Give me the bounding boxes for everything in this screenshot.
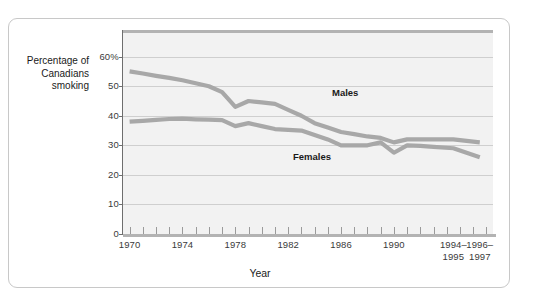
series-label-males: Males [332,87,358,98]
x-tick-mark-1992 [420,227,421,234]
y-axis-title-line-1: Percentage of [17,55,89,68]
x-tick-label-line-2: 1995 [440,251,467,263]
x-tick-label-line-1: 1974 [172,239,194,251]
y-tick-label-50: 50 [108,81,119,91]
y-tick-label-30: 30 [108,140,119,150]
x-tick-label-line-1: 1994– [440,239,467,251]
x-tick-mark-1996 [473,227,474,234]
x-tick-mark-1972 [156,227,157,234]
x-tick-mark-1987 [354,227,355,234]
x-tick-mark-1971 [143,227,144,234]
y-axis-tick-labels: 60%50403020100 [87,19,119,249]
x-tick-label-line-1: 1986 [330,239,352,251]
x-tick-mark-1983 [301,227,302,234]
x-tick-label-1996: 1996–1997 [466,239,493,263]
x-tick-mark-1975 [196,227,197,234]
x-tick-mark-1993 [434,227,435,234]
y-tick-label-60: 60% [99,52,119,62]
x-tick-mark-1985 [328,227,329,234]
y-tick-label-10: 10 [108,199,119,209]
x-tick-mark-1988 [367,227,368,234]
x-tick-mark-1973 [169,227,170,234]
x-tick-mark-1974 [182,227,183,234]
x-tick-mark-1997 [486,227,487,234]
x-tick-label-1978: 1978 [225,239,247,251]
x-tick-label-line-1: 1990 [383,239,405,251]
x-tick-label-1994: 1994–1995 [440,239,467,263]
x-tick-label-line-1: 1982 [277,239,299,251]
x-tick-label-line-1: 1996– [466,239,493,251]
x-tick-mark-1979 [249,227,250,234]
x-tick-mark-1976 [209,227,210,234]
x-tick-mark-1977 [222,227,223,234]
chart-figure-frame: Percentage of Canadians smoking 60%50403… [8,18,510,288]
x-tick-mark-1981 [275,227,276,234]
x-tick-mark-1990 [394,227,395,234]
y-tick-label-20: 20 [108,170,119,180]
x-tick-mark-1982 [288,227,289,234]
x-tick-label-line-1: 1978 [225,239,247,251]
x-tick-label-1970: 1970 [119,239,141,251]
series-lines [123,33,493,234]
x-tick-mark-1989 [381,227,382,234]
x-tick-label-line-1: 1970 [119,239,141,251]
x-tick-label-line-2: 1997 [466,251,493,263]
x-axis-tick-marks [123,227,496,235]
x-tick-mark-1970 [130,227,131,234]
x-axis-tick-labels: 1970197419781982198619901994–19951996–19… [123,239,496,267]
y-axis-title: Percentage of Canadians smoking [17,55,89,93]
y-tick-label-40: 40 [108,111,119,121]
y-axis-title-line-2: Canadians [17,68,89,81]
x-tick-mark-1991 [407,227,408,234]
x-tick-mark-1986 [341,227,342,234]
plot-area: Males Females [123,33,493,234]
x-tick-mark-1995 [460,227,461,234]
x-tick-mark-1980 [262,227,263,234]
x-tick-mark-1984 [315,227,316,234]
x-tick-label-1982: 1982 [277,239,299,251]
x-tick-label-1974: 1974 [172,239,194,251]
x-axis-title: Year [9,267,511,279]
x-tick-mark-1978 [235,227,236,234]
x-tick-label-1990: 1990 [383,239,405,251]
series-label-females: Females [293,151,331,162]
x-tick-label-1986: 1986 [330,239,352,251]
x-tick-mark-1994 [447,227,448,234]
y-axis-title-line-3: smoking [17,80,89,93]
